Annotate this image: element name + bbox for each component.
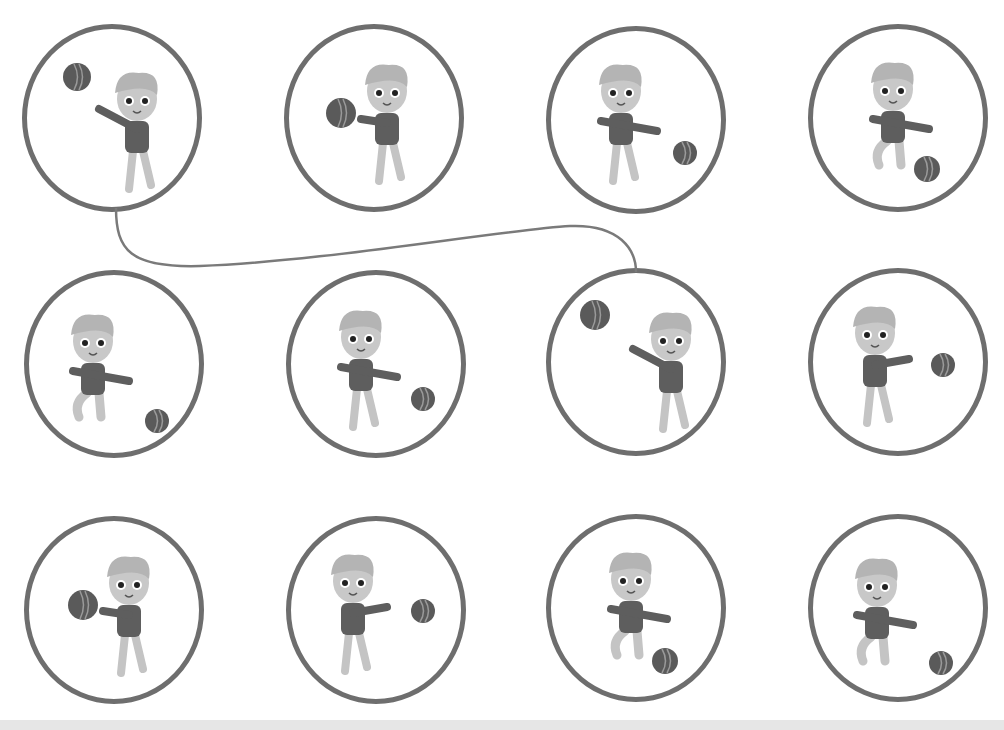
ball-icon [411, 599, 435, 623]
ball-icon [63, 63, 91, 91]
picture-circle-r1-c1[interactable] [22, 24, 202, 212]
boy-figure [99, 72, 158, 189]
boy-figure [855, 558, 913, 661]
ball-icon [145, 409, 169, 433]
boy-figure [331, 554, 387, 671]
boy-figure [633, 312, 692, 429]
ball-icon [673, 141, 697, 165]
ball-icon [580, 300, 610, 330]
picture-circle-r3-c1[interactable] [24, 516, 204, 704]
picture-circle-r1-c4[interactable] [808, 24, 988, 212]
picture-circle-r1-c2[interactable] [284, 24, 464, 212]
picture-circle-r3-c4[interactable] [808, 514, 988, 702]
match-line [116, 208, 636, 272]
bottom-bar [0, 720, 1004, 730]
boy-figure [103, 556, 150, 673]
ball-icon [411, 387, 435, 411]
boy-figure [339, 310, 397, 427]
picture-circle-r1-c3[interactable] [546, 26, 726, 214]
picture-circle-r2-c3[interactable] [546, 268, 726, 456]
boy-figure [361, 64, 408, 181]
boy-figure [853, 306, 909, 423]
ball-icon [326, 98, 356, 128]
ball-icon [652, 648, 678, 674]
ball-icon [931, 353, 955, 377]
boy-figure [599, 64, 657, 181]
boy-figure [871, 62, 929, 165]
picture-circle-r2-c2[interactable] [286, 270, 466, 458]
picture-circle-r3-c2[interactable] [286, 516, 466, 704]
picture-circle-r2-c4[interactable] [808, 268, 988, 456]
ball-icon [914, 156, 940, 182]
ball-icon [68, 590, 98, 620]
boy-figure [71, 314, 129, 417]
boy-figure [609, 552, 667, 655]
picture-circle-r2-c1[interactable] [24, 270, 204, 458]
ball-icon [929, 651, 953, 675]
picture-circle-r3-c3[interactable] [546, 514, 726, 702]
